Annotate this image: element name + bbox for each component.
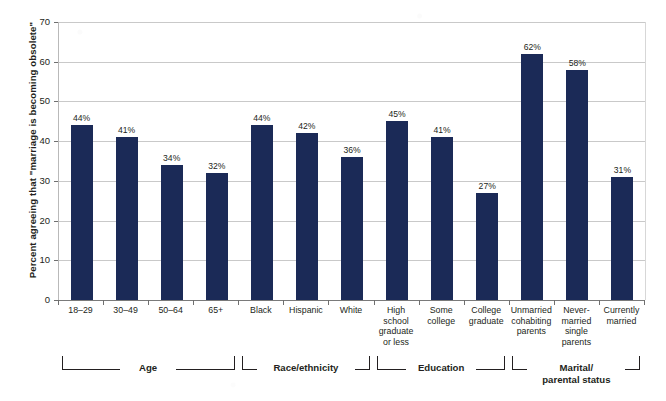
bar-value-label: 44% (58, 113, 106, 123)
bar-value-label: 31% (598, 165, 646, 175)
x-axis-category-label: College graduate (464, 305, 509, 326)
x-axis-category-labels: 18–2930–4950–6465+BlackHispanicWhiteHigh… (0, 305, 666, 363)
x-axis-category-label: 50–64 (148, 305, 193, 316)
bar-value-label: 58% (553, 58, 601, 68)
y-axis-tick-label: 40 (28, 135, 50, 146)
y-axis-tick-label: 30 (28, 175, 50, 186)
plot-area: 44%41%34%32%44%42%36%45%41%27%62%58%31% (58, 22, 646, 300)
group-bracket: Race/ethnicity (242, 356, 370, 386)
bar (476, 193, 498, 300)
y-axis-tick-label: 50 (28, 95, 50, 106)
bar (116, 137, 138, 300)
y-axis-tick-label: 70 (28, 16, 50, 27)
group-bracket-right-arm (176, 356, 235, 370)
x-axis-category-label: Currently married (599, 305, 644, 326)
group-bracket-left-arm (242, 356, 257, 370)
bar-value-label: 27% (463, 181, 511, 191)
bar (296, 133, 318, 300)
group-bracket-right-arm (625, 356, 640, 370)
x-axis-category-label: Black (238, 305, 283, 316)
bar-value-label: 42% (283, 121, 331, 131)
x-axis-category-label: 18–29 (58, 305, 103, 316)
group-label: Age (119, 362, 177, 374)
bar-value-label: 32% (193, 161, 241, 171)
x-axis-category-label: High school graduate or less (374, 305, 419, 347)
category-group-brackets: AgeRace/ethnicityEducationMarital/ paren… (0, 356, 666, 400)
bar-chart-figure: Percent agreeing that "marriage is becom… (0, 0, 666, 401)
bar (386, 121, 408, 300)
group-bracket-right-arm (476, 356, 505, 370)
bar (206, 173, 228, 300)
group-bracket: Age (62, 356, 235, 386)
bar-value-label: 34% (148, 153, 196, 163)
x-axis-category-label: Unmarried cohabiting parents (509, 305, 554, 337)
bar (611, 177, 633, 300)
x-axis-category-label: Never- married single parents (554, 305, 599, 347)
group-bracket-left-arm (62, 356, 121, 370)
bar-value-label: 45% (373, 109, 421, 119)
group-bracket: Marital/ parental status (512, 356, 640, 386)
bar (566, 70, 588, 300)
bar-value-label: 62% (508, 42, 556, 52)
bar (341, 157, 363, 300)
gridline (59, 22, 645, 23)
group-bracket: Education (377, 356, 505, 386)
bar (431, 137, 453, 300)
y-axis-tick-label: 0 (28, 294, 50, 305)
y-axis-tick-label: 60 (28, 56, 50, 67)
bar-value-label: 36% (328, 145, 376, 155)
gridline (59, 101, 645, 102)
bar (251, 125, 273, 300)
group-bracket-left-arm (512, 356, 527, 370)
x-axis-category-label: Hispanic (283, 305, 328, 316)
x-axis-category-label: Some college (419, 305, 464, 326)
group-bracket-right-arm (355, 356, 370, 370)
bar (71, 125, 93, 300)
y-axis-tick-label: 10 (28, 254, 50, 265)
bar (521, 54, 543, 300)
bar-value-label: 41% (418, 125, 466, 135)
x-axis-category-label: 65+ (193, 305, 238, 316)
gridline (59, 141, 645, 142)
bar-value-label: 44% (238, 113, 286, 123)
group-label: Marital/ parental status (526, 362, 626, 385)
x-axis-category-label: White (328, 305, 373, 316)
bar (161, 165, 183, 300)
group-bracket-left-arm (377, 356, 406, 370)
bar-value-label: 41% (103, 125, 151, 135)
group-label: Education (405, 362, 477, 374)
group-label: Race/ethnicity (256, 362, 356, 374)
x-axis-category-label: 30–49 (103, 305, 148, 316)
y-axis-tick-label: 20 (28, 215, 50, 226)
